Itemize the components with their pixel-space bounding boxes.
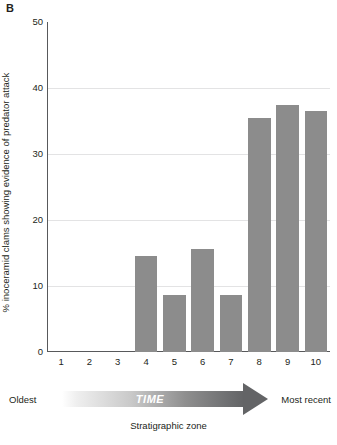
x-axis-title: Stratigraphic zone — [0, 420, 337, 431]
x-tick-label-8: 8 — [257, 356, 262, 367]
x-tick-label-5: 5 — [172, 356, 177, 367]
x-tick-label-2: 2 — [87, 356, 92, 367]
bar-zone-5 — [163, 295, 186, 352]
bar-zone-9 — [276, 105, 299, 353]
most-recent-label: Most recent — [281, 394, 331, 405]
x-tick-label-7: 7 — [228, 356, 233, 367]
bar-slot-7 — [217, 22, 245, 352]
time-label: TIME — [136, 393, 164, 405]
x-tick-label-1: 1 — [58, 356, 63, 367]
bar-slot-8 — [245, 22, 273, 352]
y-tick-label-50: 50 — [32, 17, 43, 27]
bar-zone-7 — [220, 295, 243, 352]
bar-zone-6 — [191, 249, 214, 352]
bar-slot-4 — [132, 22, 160, 352]
bar-slot-5 — [160, 22, 188, 352]
x-axis-ticks: 1 2 3 4 5 6 7 8 9 10 — [47, 356, 330, 370]
bar-slot-3 — [104, 22, 132, 352]
x-tick-label-3: 3 — [115, 356, 120, 367]
y-tick-label-10: 10 — [32, 281, 43, 291]
y-tick-label-40: 40 — [32, 83, 43, 93]
bar-slot-10 — [302, 22, 330, 352]
y-tick-label-20: 20 — [32, 215, 43, 225]
bar-zone-4 — [135, 256, 158, 352]
bar-slot-6 — [189, 22, 217, 352]
time-arrow-band: TIME Oldest Most recent — [0, 382, 337, 416]
x-tick-label-9: 9 — [285, 356, 290, 367]
y-tick-label-30: 30 — [32, 149, 43, 159]
x-tick-label-10: 10 — [311, 356, 322, 367]
bar-zone-10 — [305, 111, 328, 352]
bar-zone-8 — [248, 118, 271, 352]
x-tick-label-4: 4 — [143, 356, 148, 367]
bar-slot-9 — [273, 22, 301, 352]
bar-series — [47, 22, 330, 352]
bar-slot-2 — [75, 22, 103, 352]
oldest-label: Oldest — [9, 394, 36, 405]
y-tick-label-0: 0 — [38, 347, 43, 357]
time-arrow-head — [243, 383, 268, 415]
x-tick-label-6: 6 — [200, 356, 205, 367]
figure-panel-b: B 50 40 30 20 10 0 % inoceramid clams sh… — [0, 0, 337, 445]
y-axis-title: % inoceramid clams showing evidence of p… — [0, 33, 11, 353]
bar-slot-1 — [47, 22, 75, 352]
